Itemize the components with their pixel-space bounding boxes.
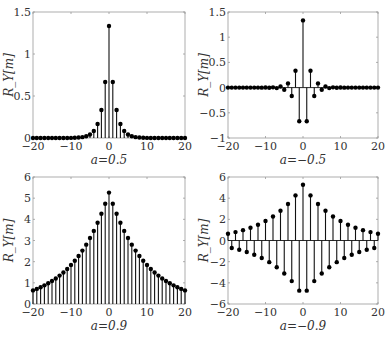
stem-marker (84, 242, 88, 246)
y-tick-label: −2 (210, 256, 226, 269)
y-tick-label: 4 (219, 192, 226, 205)
stem-marker (331, 214, 335, 218)
y-tick-label: −0.5 (199, 107, 226, 120)
stem-marker (149, 136, 153, 140)
stem-marker (357, 250, 361, 254)
stem-marker (50, 279, 54, 283)
stem-marker (175, 285, 179, 289)
stem-marker (372, 246, 376, 250)
stem-marker (365, 85, 369, 89)
stem-marker (323, 209, 327, 213)
y-tick-label: 2 (219, 213, 226, 226)
stem-marker (65, 267, 69, 271)
x-tick-label: 20 (178, 140, 192, 153)
stem-marker (241, 85, 245, 89)
stem-marker (275, 265, 279, 269)
y-tick-label: 1 (219, 31, 226, 44)
x-tick-label: 0 (300, 140, 307, 153)
y-tick-label: 1.5 (209, 6, 227, 19)
stem-marker (130, 242, 134, 246)
y-tick-label: 6 (24, 171, 31, 184)
stem-marker (171, 136, 175, 140)
stem-marker (226, 232, 230, 236)
x-axis-label: a=−0.5 (280, 153, 326, 167)
stem-marker (350, 85, 354, 89)
stem-marker (179, 287, 183, 291)
stem-marker (293, 193, 297, 197)
stem-marker (61, 270, 65, 274)
stem-marker (338, 219, 342, 223)
stem-marker (342, 85, 346, 89)
stem-marker (133, 248, 137, 252)
x-axis-label: a=0.9 (91, 319, 128, 333)
stem-marker (260, 85, 264, 89)
stem-marker (248, 226, 252, 230)
stem-marker (233, 85, 237, 89)
y-tick-label: 0 (24, 132, 31, 145)
stem-marker (156, 273, 160, 277)
stem-marker (368, 230, 372, 234)
y-axis-label: R_Y[m] (2, 53, 16, 98)
stem-marker (297, 119, 301, 123)
y-tick-label: 2 (24, 256, 31, 269)
stem-marker (282, 271, 286, 275)
y-axis-label: R_Y[m] (2, 218, 16, 263)
stem-marker (293, 69, 297, 73)
x-tick-label: 0 (106, 306, 113, 319)
stem-marker (346, 85, 350, 89)
stem-marker (183, 288, 187, 292)
stem-marker (327, 265, 331, 269)
stem-marker (73, 259, 77, 263)
y-axis-label: R_Y[m] (197, 218, 211, 263)
stem-marker (54, 276, 58, 280)
stem-marker (103, 80, 107, 84)
stem-marker (92, 129, 96, 133)
stem-marker (372, 85, 376, 89)
y-tick-label: 1 (24, 277, 31, 290)
stem-marker (126, 236, 130, 240)
stem-marker (57, 136, 61, 140)
stem-marker (346, 223, 350, 227)
stem-marker (141, 259, 145, 263)
stem-marker (84, 134, 88, 138)
stem-plot-figure: −20−100102000.511.5a=0.5R_Y[m] −20−10010… (0, 0, 391, 337)
stem-marker (376, 85, 380, 89)
stem-marker (316, 81, 320, 85)
stem-marker (111, 202, 115, 206)
x-tick-label: −10 (59, 306, 82, 319)
stem-marker (376, 232, 380, 236)
stem-marker (230, 246, 234, 250)
x-axis-label: a=0.5 (91, 153, 127, 167)
panel-a-neg-0.5: −20−1001020−1−0.500.511.5a=−0.5R_Y[m] (197, 6, 385, 167)
x-tick-label: 10 (334, 306, 348, 319)
stem-marker (271, 214, 275, 218)
stem-marker (168, 281, 172, 285)
stem-marker (301, 18, 305, 22)
stem-marker (141, 136, 145, 140)
stem-marker (353, 85, 357, 89)
stem-marker (152, 270, 156, 274)
stem-marker (305, 119, 309, 123)
stem-marker (69, 263, 73, 267)
y-tick-label: 1 (24, 48, 31, 61)
stem-marker (42, 283, 46, 287)
stem-marker (111, 80, 115, 84)
stem-marker (99, 108, 103, 112)
stem-marker (168, 136, 172, 140)
stem-marker (46, 281, 50, 285)
stem-marker (275, 86, 279, 90)
stem-marker (230, 85, 234, 89)
x-tick-label: −10 (254, 306, 277, 319)
x-tick-label: 0 (106, 140, 113, 153)
y-tick-label: 5 (24, 192, 31, 205)
stem-marker (69, 136, 73, 140)
y-tick-label: 0 (219, 235, 226, 248)
x-tick-label: 20 (371, 140, 385, 153)
stem-marker (31, 136, 35, 140)
stem-marker (126, 132, 130, 136)
stem-marker (342, 256, 346, 260)
stem-marker (241, 228, 245, 232)
stem-marker (316, 202, 320, 206)
stem-marker (179, 136, 183, 140)
stem-marker (46, 136, 50, 140)
